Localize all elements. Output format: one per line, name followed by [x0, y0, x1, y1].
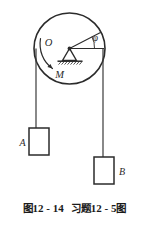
figure-caption: 图12 - 14习题12 - 5图	[0, 198, 149, 216]
label-moment-m: M	[54, 69, 65, 80]
block-b	[94, 157, 114, 184]
label-angle-phi: φ	[93, 33, 98, 43]
label-block-a: A	[18, 137, 26, 148]
figure-container: O M φ A B 图12 - 14习题12 - 5图	[0, 0, 149, 241]
caption-trailing-word: 图	[116, 202, 126, 214]
axle-hub-dot	[68, 47, 72, 51]
caption-figure-number: 12 - 14	[33, 202, 64, 214]
label-center-o: O	[45, 37, 53, 48]
caption-problem-word: 习题	[71, 202, 91, 214]
caption-problem-number: 12 - 5	[91, 202, 117, 214]
block-a	[29, 128, 49, 155]
caption-figure-word: 图	[23, 202, 33, 214]
label-block-b: B	[119, 166, 125, 177]
